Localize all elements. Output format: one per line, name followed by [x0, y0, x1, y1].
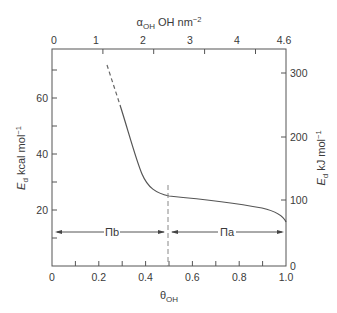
y2-tick-label: 200 — [290, 131, 308, 143]
y2-axis-ticks — [281, 73, 286, 200]
x-tick-label: 1.0 — [279, 271, 294, 283]
x-tick-label: 0.4 — [138, 271, 153, 283]
x2-tick-label: 4 — [234, 34, 240, 46]
y-axis-tick-labels: 20 40 60 — [36, 92, 48, 216]
x-axis-ticks — [75, 261, 262, 266]
x-tick-label: 0.2 — [91, 271, 106, 283]
x2-tick-label: 4.6 — [277, 34, 292, 46]
y2-tick-label: 0 — [290, 260, 296, 272]
y-tick-label: 40 — [36, 148, 48, 160]
chart: 0 0.2 0.4 0.6 0.8 1.0 θOH 0 1 2 3 4 4.6 … — [0, 0, 337, 313]
y-tick-label: 20 — [36, 204, 48, 216]
region-label-pib: Πb — [105, 226, 119, 238]
y2-tick-label: 100 — [290, 194, 308, 206]
x2-tick-label: 2 — [140, 34, 146, 46]
x2-axis-tick-labels: 0 1 2 3 4 4.6 — [51, 34, 291, 46]
curve-extrapolated — [107, 65, 120, 105]
y-axis-ticks — [52, 70, 57, 238]
x2-axis-title: αOH OH nm−2 — [137, 15, 202, 31]
range-arrows — [55, 230, 284, 234]
curve-ed — [120, 105, 286, 222]
y-tick-label: 60 — [36, 92, 48, 104]
y2-axis-tick-labels: 0 100 200 300 — [290, 67, 308, 272]
x2-tick-label: 0 — [51, 34, 57, 46]
region-label-pia: Πa — [220, 226, 235, 238]
x2-tick-label: 3 — [187, 34, 193, 46]
x2-axis-ticks — [103, 49, 256, 54]
y-axis-title: Ed kcal mol−1 — [14, 126, 30, 190]
x-tick-label: 0.8 — [232, 271, 247, 283]
y2-axis-title: Ed kJ mol−1 — [314, 130, 330, 185]
x-axis-title: θOH — [160, 289, 178, 304]
plot-frame — [52, 49, 286, 266]
x-tick-label: 0.6 — [185, 271, 200, 283]
x2-tick-label: 1 — [93, 34, 99, 46]
x-tick-label: 0 — [49, 271, 55, 283]
y2-tick-label: 300 — [290, 67, 308, 79]
x-axis-tick-labels: 0 0.2 0.4 0.6 0.8 1.0 — [49, 271, 293, 283]
